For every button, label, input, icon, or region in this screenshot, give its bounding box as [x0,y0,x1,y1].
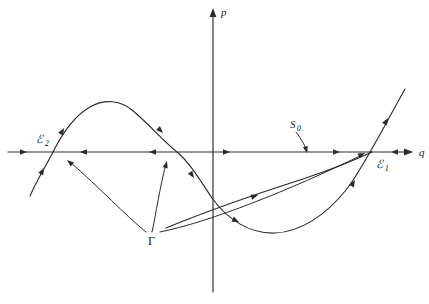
gamma-pointer-left-arrowhead [65,158,74,166]
separatrix-s0-symbol: S [290,118,296,130]
equilibrium-a1-label: ℰ 1 [376,157,389,173]
gamma-pointer-left-line [70,162,146,232]
equilibrium-a2-label: ℰ 2 [36,132,49,148]
axis-flow-arrow-1 [20,149,27,155]
q-axis-arrowhead [404,149,413,156]
separatrix-s0-label: S 0 [290,118,301,133]
gamma-trajectory-curve [166,152,372,228]
equilibrium-a1-symbol: ℰ [376,157,384,171]
p-axis-label: p [220,6,227,18]
axes-group [8,8,413,292]
axis-flow-arrow-3 [149,149,156,155]
phase-portrait-figure: p q ℰ 2 ℰ 1 S 0 Γ [0,0,429,304]
q-axis-label: q [419,146,425,158]
equilibrium-a2-subscript: 2 [45,139,49,148]
curve-flow-arrow-1 [38,167,46,176]
pointers-group [65,132,366,232]
equilibrium-a2-symbol: ℰ [36,132,44,146]
separatrix-s0-subscript: 0 [297,124,301,133]
axis-flow-arrow-5 [333,149,340,155]
gamma-pointer-up-arrowhead [163,160,170,168]
axis-flow-arrow-6 [391,149,398,155]
axis-flow-arrow-4 [223,149,230,155]
p-axis-arrowhead [210,8,217,17]
equilibrium-a1-subscript: 1 [385,164,389,173]
flow-arrows-group [20,117,398,225]
phase-portrait-canvas: p q ℰ 2 ℰ 1 S 0 Γ [0,0,429,304]
gamma-curve-label: Γ [148,234,155,248]
gamma-pointer-up-line [152,164,166,232]
axis-flow-arrow-2 [80,149,87,155]
